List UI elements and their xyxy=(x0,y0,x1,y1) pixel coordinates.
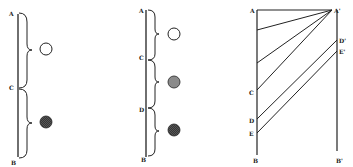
dark-circle xyxy=(40,116,52,128)
label-e: E xyxy=(249,130,254,137)
diagram-canvas: A C B A C D B A A' C D E B D' E' B' xyxy=(0,0,353,167)
label-a: A xyxy=(249,7,255,14)
label-a-prime: A' xyxy=(333,7,341,14)
figure-3: A A' C D E B D' E' B' xyxy=(249,7,346,164)
label-b-prime: B' xyxy=(336,157,343,164)
brace-lower xyxy=(19,89,32,158)
label-b: B xyxy=(11,159,16,166)
label-d: D xyxy=(249,117,254,124)
gray-circle xyxy=(168,76,180,88)
line-d-d-prime xyxy=(257,40,337,119)
label-c: C xyxy=(9,84,14,91)
line-e-e-prime xyxy=(257,51,337,133)
figure-2: A C D B xyxy=(138,7,180,163)
white-circle xyxy=(40,43,52,55)
ray-2 xyxy=(257,10,332,63)
brace-upper xyxy=(19,13,32,88)
brace-3 xyxy=(148,108,159,156)
label-a: A xyxy=(138,7,144,14)
dark-circle xyxy=(168,124,180,136)
label-c: C xyxy=(249,89,254,96)
figure-1: A C B xyxy=(8,10,52,166)
label-b: B xyxy=(253,157,258,164)
label-c: C xyxy=(139,54,144,61)
brace-1 xyxy=(148,10,159,60)
label-e-prime: E' xyxy=(339,48,346,55)
white-circle xyxy=(168,28,180,40)
label-d: D xyxy=(139,106,144,113)
ray-c xyxy=(257,10,332,90)
brace-2 xyxy=(148,60,159,108)
label-b: B xyxy=(141,156,146,163)
label-a: A xyxy=(8,10,14,17)
ray-1 xyxy=(257,10,332,30)
label-d-prime: D' xyxy=(339,37,346,44)
